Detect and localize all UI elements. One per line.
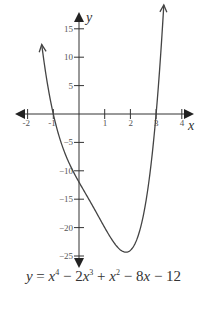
y-axis-label: y (84, 10, 93, 25)
svg-text:−25: −25 (59, 251, 74, 261)
svg-text:4: 4 (180, 118, 185, 128)
equation-label: y = x4 − 2x3 + x2 − 8x − 12 (0, 268, 207, 285)
svg-text:15: 15 (64, 24, 74, 34)
polynomial-curve (42, 5, 164, 252)
svg-text:1: 1 (103, 118, 108, 128)
svg-text:−5: −5 (63, 137, 73, 147)
y-axis (74, 12, 84, 268)
svg-text:−15: −15 (59, 194, 74, 204)
svg-text:5: 5 (69, 81, 74, 91)
x-axis-label: x (187, 118, 195, 133)
svg-text:-2: -2 (23, 118, 31, 128)
svg-text:10: 10 (64, 52, 74, 62)
svg-text:−20: −20 (59, 223, 74, 233)
function-graph: -2-1123415105−5−10−15−20−25 y x (0, 0, 207, 309)
axis-ticks (28, 29, 182, 256)
curve-end-arrows (39, 5, 167, 52)
svg-text:2: 2 (128, 118, 133, 128)
y-axis-up-arrow-icon (74, 12, 84, 22)
y-axis-down-arrow-icon (74, 258, 84, 268)
